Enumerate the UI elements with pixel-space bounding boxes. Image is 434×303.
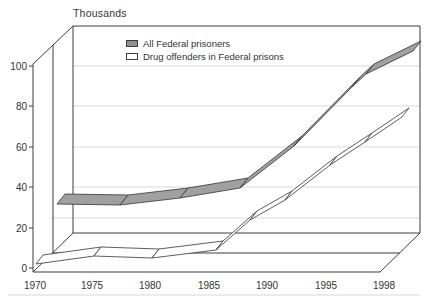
x-tick-label: 1970 bbox=[24, 280, 47, 291]
legend-item-drug-offenders: Drug offenders in Federal prisons bbox=[126, 51, 284, 62]
ribbon-segment bbox=[285, 156, 337, 200]
ribbon-segment bbox=[216, 211, 257, 250]
ribbon-segment bbox=[120, 188, 188, 205]
ribbon-segment bbox=[365, 108, 409, 142]
x-tick-label: 1980 bbox=[139, 280, 162, 291]
x-tick-label: 1998 bbox=[373, 280, 396, 291]
legend-item-all-federal-prisoners: All Federal prisoners bbox=[126, 38, 284, 49]
legend-swatch-filled-icon bbox=[126, 40, 138, 47]
y-tick-label: 60 bbox=[16, 142, 28, 153]
legend-swatch-hollow-icon bbox=[126, 53, 138, 60]
ribbon-segment bbox=[352, 64, 374, 87]
ribbon-segment bbox=[36, 247, 101, 264]
ribbon-segment bbox=[250, 191, 292, 220]
legend-label: Drug offenders in Federal prisons bbox=[143, 51, 284, 62]
x-tick-label: 1990 bbox=[256, 280, 279, 291]
ribbon-segment bbox=[152, 241, 223, 258]
y-tick-label: 100 bbox=[10, 61, 27, 72]
chart-page: 1008060402001970197519801985199019951998… bbox=[0, 0, 434, 303]
y-tick-label: 80 bbox=[16, 101, 28, 112]
chart-legend: All Federal prisoners Drug offenders in … bbox=[126, 38, 284, 64]
ribbon-segment bbox=[294, 77, 360, 146]
y-axis-unit-label: Thousands bbox=[73, 7, 127, 19]
x-tick-label: 1975 bbox=[81, 280, 104, 291]
ribbon-segment bbox=[57, 194, 128, 205]
ribbon-segment bbox=[330, 133, 372, 165]
y-tick-label: 40 bbox=[16, 182, 28, 193]
ribbon-segment bbox=[94, 247, 159, 258]
legend-label: All Federal prisoners bbox=[143, 38, 230, 49]
y-tick-label: 20 bbox=[16, 223, 28, 234]
ribbon-segment bbox=[180, 178, 248, 198]
ribbon-segment bbox=[240, 136, 302, 188]
y-tick-label: 0 bbox=[21, 263, 27, 274]
x-tick-label: 1985 bbox=[198, 280, 221, 291]
x-tick-label: 1995 bbox=[315, 280, 338, 291]
ribbon-segment bbox=[366, 41, 421, 74]
